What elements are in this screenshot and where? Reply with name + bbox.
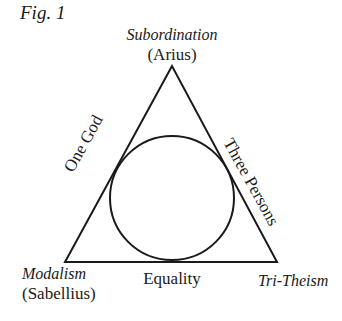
vertex-top-title: Subordination xyxy=(127,26,218,44)
vertex-top-subtitle: (Arius) xyxy=(147,45,196,65)
inscribed-circle xyxy=(110,136,234,260)
vertex-bottom-left-subtitle: (Sabellius) xyxy=(22,284,96,304)
side-bottom-label: Equality xyxy=(143,269,201,289)
vertex-bottom-right-title: Tri-Theism xyxy=(258,272,328,290)
vertex-bottom-left-title: Modalism xyxy=(22,265,86,283)
